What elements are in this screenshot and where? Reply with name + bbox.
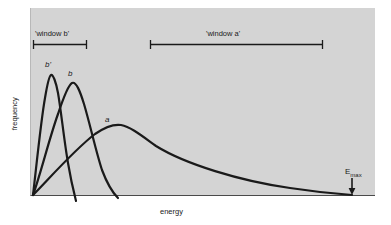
window-b-label: 'window b' [35, 30, 69, 38]
window-a-label: 'window a' [206, 30, 240, 38]
emax-label: Emax [345, 168, 362, 178]
y-axis-label: frequency [11, 84, 19, 144]
curve-label-a: a [105, 116, 109, 124]
emax-subscript: max [350, 172, 361, 178]
curve-label-b: b [68, 70, 72, 78]
curve-label-b-prime: b' [45, 61, 51, 69]
x-axis-label: energy [160, 208, 183, 216]
figure-container: 'window b' 'window a' b' b a Emax freque… [0, 0, 391, 225]
